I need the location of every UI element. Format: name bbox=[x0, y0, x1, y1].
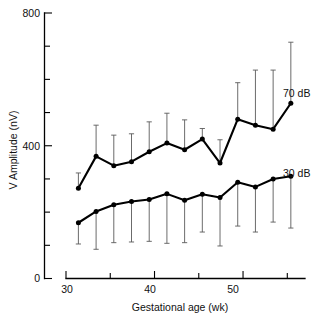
data-point-30-db bbox=[111, 202, 116, 207]
data-point-70-db bbox=[235, 117, 240, 122]
data-point-70-db bbox=[111, 163, 116, 168]
data-point-30-db bbox=[253, 184, 258, 189]
x-tick-label-50: 50 bbox=[227, 283, 239, 295]
data-point-30-db bbox=[271, 176, 276, 181]
data-point-70-db bbox=[200, 137, 205, 142]
x-tick-label-30: 30 bbox=[61, 283, 73, 295]
data-point-30-db bbox=[182, 198, 187, 203]
y-tick-label-800: 800 bbox=[22, 7, 40, 19]
data-point-70-db bbox=[182, 147, 187, 152]
chart-container: 800 400 0 30 40 50 V Amplitude (nV) Gest… bbox=[0, 0, 317, 321]
series-label-70db: 70 dB bbox=[283, 87, 310, 99]
data-point-30-db bbox=[76, 220, 81, 225]
data-point-70-db bbox=[129, 159, 134, 164]
data-point-70-db bbox=[76, 186, 81, 191]
series-error-bars bbox=[76, 42, 294, 249]
data-point-30-db bbox=[218, 195, 223, 200]
data-point-30-db bbox=[129, 199, 134, 204]
x-axis-ticks bbox=[66, 271, 287, 279]
data-point-30-db bbox=[235, 180, 240, 185]
y-tick-label-400: 400 bbox=[22, 140, 40, 152]
y-axis-title: V Amplitude (nV) bbox=[7, 111, 19, 190]
series-label-30db: 30 dB bbox=[283, 167, 310, 179]
x-axis-title: Gestational age (wk) bbox=[132, 301, 228, 313]
data-point-70-db bbox=[271, 127, 276, 132]
data-point-30-db bbox=[94, 209, 99, 214]
x-tick-label-40: 40 bbox=[144, 283, 156, 295]
data-point-70-db bbox=[147, 149, 152, 154]
data-point-70-db bbox=[218, 161, 223, 166]
data-point-30-db bbox=[147, 197, 152, 202]
data-point-30-db bbox=[200, 192, 205, 197]
data-point-70-db bbox=[94, 154, 99, 159]
data-point-70-db bbox=[288, 101, 293, 106]
y-tick-label-0: 0 bbox=[34, 272, 40, 284]
y-axis-ticks bbox=[45, 13, 53, 279]
data-point-30-db bbox=[164, 191, 169, 196]
v-amplitude-gestational-age-chart: 800 400 0 30 40 50 V Amplitude (nV) Gest… bbox=[0, 0, 317, 321]
data-point-70-db bbox=[164, 141, 169, 146]
data-point-70-db bbox=[253, 123, 258, 128]
